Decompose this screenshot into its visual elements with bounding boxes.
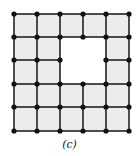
grid-node bbox=[57, 57, 62, 62]
grid-cell bbox=[14, 37, 37, 60]
grid-cell bbox=[37, 37, 60, 60]
grid-node bbox=[34, 57, 39, 62]
grid-node bbox=[103, 34, 108, 39]
grid-cell bbox=[83, 14, 106, 37]
grid-node bbox=[11, 57, 16, 62]
grid-cell bbox=[60, 14, 83, 37]
grid-graph bbox=[0, 0, 139, 156]
grid-cell bbox=[106, 107, 129, 131]
grid-node bbox=[80, 104, 85, 109]
grid-cell bbox=[106, 84, 129, 107]
grid-node bbox=[11, 34, 16, 39]
grid-node bbox=[34, 34, 39, 39]
grid-node bbox=[80, 34, 85, 39]
grid-cell bbox=[37, 107, 60, 131]
grid-node bbox=[103, 81, 108, 86]
grid-node bbox=[34, 81, 39, 86]
grid-node bbox=[80, 81, 85, 86]
grid-node bbox=[11, 128, 16, 133]
grid-node bbox=[103, 11, 108, 16]
grid-node bbox=[126, 128, 131, 133]
grid-node bbox=[80, 128, 85, 133]
grid-node bbox=[126, 11, 131, 16]
grid-node bbox=[11, 11, 16, 16]
grid-node bbox=[34, 11, 39, 16]
grid-cell bbox=[106, 37, 129, 60]
grid-node bbox=[126, 81, 131, 86]
grid-cell bbox=[83, 84, 106, 107]
grid-node bbox=[103, 104, 108, 109]
grid-cell bbox=[106, 14, 129, 37]
grid-cell bbox=[37, 60, 60, 84]
grid-node bbox=[11, 104, 16, 109]
grid-node bbox=[126, 57, 131, 62]
grid-cell bbox=[14, 14, 37, 37]
grid-cell bbox=[37, 14, 60, 37]
figure-caption: (c) bbox=[0, 138, 139, 151]
grid-cell bbox=[14, 60, 37, 84]
grid-node bbox=[126, 34, 131, 39]
grid-node bbox=[34, 128, 39, 133]
grid-cell bbox=[14, 84, 37, 107]
grid-node bbox=[103, 57, 108, 62]
grid-node bbox=[57, 128, 62, 133]
grid-node bbox=[103, 128, 108, 133]
grid-cell bbox=[14, 107, 37, 131]
grid-node bbox=[34, 104, 39, 109]
grid-cell bbox=[37, 84, 60, 107]
grid-cell bbox=[106, 60, 129, 84]
grid-node bbox=[57, 34, 62, 39]
grid-node bbox=[57, 81, 62, 86]
grid-node bbox=[57, 104, 62, 109]
grid-node bbox=[57, 11, 62, 16]
grid-node bbox=[80, 11, 85, 16]
grid-node bbox=[126, 104, 131, 109]
grid-cell bbox=[60, 84, 83, 107]
grid-cell bbox=[83, 107, 106, 131]
grid-cell bbox=[60, 107, 83, 131]
grid-node bbox=[11, 81, 16, 86]
